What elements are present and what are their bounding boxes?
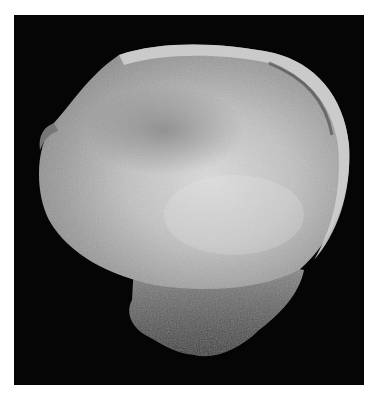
specimen-photo <box>14 15 364 385</box>
specimen-illustration <box>14 15 364 385</box>
